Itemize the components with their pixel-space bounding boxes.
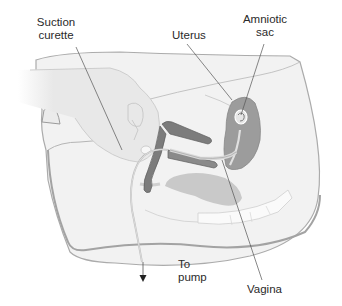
label-amniotic-sac: Amniotic sac: [239, 13, 291, 39]
label-amniotic-sac-line2: sac: [239, 26, 291, 39]
label-suction-curette-line2: curette: [31, 29, 81, 42]
label-amniotic-sac-line1: Amniotic: [239, 13, 291, 26]
label-to-pump-line2: pump: [178, 271, 207, 284]
label-uterus: Uterus: [172, 29, 206, 42]
label-suction-curette-line1: Suction: [31, 16, 81, 29]
label-to-pump: To pump: [178, 258, 207, 284]
label-to-pump-line1: To: [178, 258, 207, 271]
illustration: [0, 0, 342, 306]
label-vagina: Vagina: [247, 283, 282, 296]
amniotic-sac: [235, 110, 247, 124]
label-suction-curette: Suction curette: [31, 16, 81, 42]
